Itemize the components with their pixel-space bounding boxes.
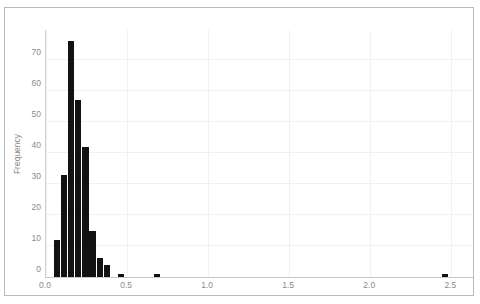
x-axis-tick-labels: 0.00.51.01.52.02.5 — [45, 280, 473, 294]
y-axis-tick-label: 30 — [15, 172, 41, 181]
gridline-vertical — [208, 30, 209, 277]
gridline-horizontal — [46, 121, 473, 122]
y-axis-tick-label: 20 — [15, 203, 41, 212]
histogram-bar — [68, 41, 74, 277]
histogram-bar — [82, 147, 88, 277]
gridline-horizontal — [46, 183, 473, 184]
y-axis-tick-label: 50 — [15, 110, 41, 119]
x-axis-tick-label: 0.5 — [120, 280, 132, 290]
histogram-bar — [118, 274, 124, 277]
gridline-vertical — [451, 30, 452, 277]
y-axis-tick-label: 10 — [15, 234, 41, 243]
plot-area — [45, 30, 473, 278]
gridline-horizontal — [46, 152, 473, 153]
gridline-horizontal — [46, 59, 473, 60]
histogram-bar — [104, 265, 110, 277]
histogram-bar — [89, 231, 95, 278]
x-axis-tick-label: 1.5 — [282, 280, 294, 290]
histogram-bar — [54, 240, 60, 277]
histogram-bar — [97, 258, 103, 277]
gridline-vertical — [289, 30, 290, 277]
y-axis-tick-label: 70 — [15, 48, 41, 57]
gridline-vertical — [46, 30, 47, 277]
gridline-horizontal — [46, 90, 473, 91]
gridline-vertical — [370, 30, 371, 277]
figure-frame: Frequency 010203040506070 0.00.51.01.52.… — [4, 7, 474, 296]
histogram-figure: Frequency 010203040506070 0.00.51.01.52.… — [0, 0, 480, 304]
y-axis-tick-label: 40 — [15, 141, 41, 150]
y-axis-tick-label: 0 — [15, 265, 41, 274]
gridline-horizontal — [46, 245, 473, 246]
gridline-horizontal — [46, 214, 473, 215]
y-axis-tick-label: 60 — [15, 79, 41, 88]
histogram-bar — [442, 274, 448, 277]
histogram-bar — [61, 175, 67, 277]
x-axis-tick-label: 1.0 — [201, 280, 213, 290]
x-axis-tick-label: 0.0 — [39, 280, 51, 290]
x-axis-tick-label: 2.0 — [363, 280, 375, 290]
histogram-bar — [75, 100, 81, 277]
histogram-bar — [154, 274, 160, 277]
x-axis-tick-label: 2.5 — [444, 280, 456, 290]
y-axis-tick-labels: 010203040506070 — [11, 30, 41, 278]
gridline-vertical — [127, 30, 128, 277]
